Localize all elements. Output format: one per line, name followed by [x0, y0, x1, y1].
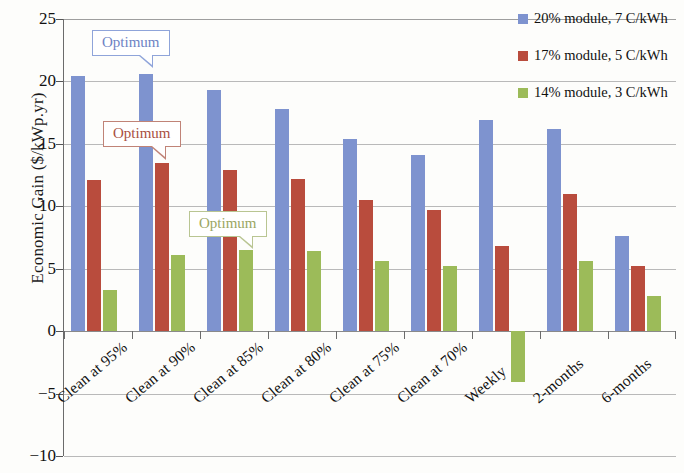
y-tick-label: −10 — [10, 446, 56, 466]
bar — [139, 74, 153, 331]
bar — [647, 296, 661, 331]
bar — [563, 194, 577, 331]
y-tick-label: 25 — [10, 9, 56, 29]
legend-item: 14% module, 3 C/kWh — [518, 84, 684, 101]
bar — [291, 179, 305, 331]
legend-item: 20% module, 7 C/kWh — [518, 10, 684, 27]
bar — [359, 200, 373, 331]
bar — [375, 261, 389, 331]
y-axis-ticks: 2520151050−5−10 — [0, 0, 56, 473]
bar — [275, 109, 289, 331]
chart-legend: 20% module, 7 C/kWh 17% module, 5 C/kWh … — [518, 10, 684, 121]
bar — [511, 331, 525, 382]
y-tick-mark — [56, 269, 63, 270]
annotation-text: Optimum — [113, 125, 171, 141]
bar — [443, 266, 457, 331]
bar — [171, 255, 185, 331]
x-tick-mark — [64, 331, 65, 339]
y-tick-label: −5 — [10, 384, 56, 404]
gridline — [64, 456, 676, 457]
x-tick-mark — [540, 331, 541, 339]
legend-label-series-3: 14% module, 3 C/kWh — [534, 84, 668, 101]
annotation-optimum-red: Optimum — [103, 121, 181, 147]
annotation-optimum-blue: Optimum — [92, 30, 170, 56]
x-tick-mark — [608, 331, 609, 339]
bar — [479, 120, 493, 331]
callout-tail-fill-icon — [152, 146, 165, 157]
legend-label-series-1: 20% module, 7 C/kWh — [534, 10, 668, 27]
bar — [87, 180, 101, 331]
bar — [223, 170, 237, 331]
callout-tail-fill-icon — [140, 55, 152, 65]
bar — [307, 251, 321, 331]
y-tick-label: 0 — [10, 321, 56, 341]
y-tick-label: 20 — [10, 71, 56, 91]
y-tick-mark — [56, 331, 63, 332]
bar — [71, 76, 85, 331]
y-tick-mark — [56, 206, 63, 207]
bar — [411, 155, 425, 331]
annotation-text: Optimum — [199, 215, 257, 231]
gridline — [64, 331, 676, 332]
legend-swatch-series-2 — [518, 51, 528, 61]
bar-chart: Economic Gain ($/kWp.yr) 2520151050−5−10… — [0, 0, 684, 473]
bar — [631, 266, 645, 331]
y-tick-mark — [56, 81, 63, 82]
legend-swatch-series-3 — [518, 88, 528, 98]
x-tick-mark — [675, 331, 676, 339]
x-tick-mark — [268, 331, 269, 339]
annotation-optimum-olive: Optimum — [189, 211, 267, 237]
bar — [495, 246, 509, 331]
legend-label-series-2: 17% module, 5 C/kWh — [534, 47, 668, 64]
callout-tail-fill-icon — [240, 236, 252, 246]
y-tick-mark — [56, 144, 63, 145]
bar — [239, 250, 253, 331]
bar — [615, 236, 629, 331]
bar — [427, 210, 441, 331]
x-tick-mark — [132, 331, 133, 339]
bar — [579, 261, 593, 331]
x-tick-mark — [200, 331, 201, 339]
x-tick-mark — [336, 331, 337, 339]
bar — [155, 163, 169, 332]
gridline — [64, 394, 676, 395]
x-tick-mark — [404, 331, 405, 339]
bar — [547, 129, 561, 331]
y-tick-label: 10 — [10, 196, 56, 216]
legend-item: 17% module, 5 C/kWh — [518, 47, 684, 64]
y-tick-label: 15 — [10, 134, 56, 154]
bar — [343, 139, 357, 331]
bar — [103, 290, 117, 331]
y-tick-mark — [56, 456, 63, 457]
annotation-text: Optimum — [102, 34, 160, 50]
legend-swatch-series-1 — [518, 14, 528, 24]
x-tick-mark — [472, 331, 473, 339]
y-tick-label: 5 — [10, 259, 56, 279]
y-tick-mark — [56, 19, 63, 20]
